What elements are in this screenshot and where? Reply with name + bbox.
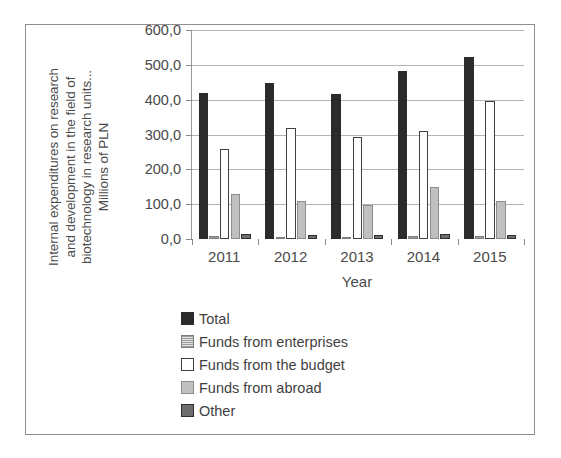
- x-tick-label-2012: 2012: [274, 248, 307, 265]
- bar-2014-funds-from-the-budget: [419, 131, 428, 239]
- legend-swatch-icon-3: [181, 381, 194, 394]
- bar-2015-other: [507, 235, 516, 239]
- bar-2014-total: [398, 71, 407, 239]
- legend-swatch-icon-1: [181, 335, 194, 348]
- plot-block: 0,0100,0200,0300,0400,0500,0600,0 201120…: [129, 30, 529, 280]
- bar-group-2015: [458, 30, 524, 239]
- y-axis-title: Internal expenditures on research and de…: [37, 22, 121, 312]
- y-tick-label-2: 200,0: [145, 161, 181, 177]
- x-axis-title: Year: [191, 273, 523, 290]
- bar-2014-funds-from-enterprises: [408, 236, 417, 239]
- y-tick-label-6: 600,0: [145, 22, 181, 38]
- bar-2012-funds-from-abroad: [297, 201, 306, 239]
- legend-swatch-icon-4: [181, 404, 194, 417]
- x-tick-mark-1: [325, 239, 326, 245]
- bar-group-2012: [258, 30, 324, 239]
- bar-2013-funds-from-enterprises: [342, 237, 351, 239]
- y-tick-label-4: 400,0: [145, 92, 181, 108]
- chart-frame: Internal expenditures on research and de…: [25, 24, 535, 435]
- bar-2014-funds-from-abroad: [430, 187, 439, 239]
- bar-2015-funds-from-enterprises: [475, 236, 484, 239]
- x-tick-label-2015: 2015: [473, 248, 506, 265]
- y-axis-title-line-2: and development in the field of: [63, 77, 80, 258]
- bar-2015-total: [464, 57, 473, 239]
- bar-2013-total: [331, 94, 340, 239]
- legend-label-2: Funds from the budget: [199, 357, 345, 373]
- y-axis-title-line-4: Millions of PLN: [96, 123, 113, 212]
- bar-2012-funds-from-the-budget: [286, 128, 295, 239]
- bar-2011-funds-from-the-budget: [220, 149, 229, 239]
- x-tick-label-2013: 2013: [340, 248, 373, 265]
- y-tick-label-5: 500,0: [145, 57, 181, 73]
- bar-2011-other: [241, 234, 250, 239]
- bar-2013-funds-from-abroad: [363, 205, 372, 239]
- legend-label-3: Funds from abroad: [199, 380, 322, 396]
- y-axis-title-line-3: biotechnology in research units...: [79, 70, 96, 264]
- legend-item-funds-from-enterprises[interactable]: Funds from enterprises: [181, 330, 441, 353]
- legend-label-0: Total: [199, 311, 230, 327]
- x-tick-mark-2: [391, 239, 392, 245]
- bar-2011-total: [199, 93, 208, 239]
- plot-area: [191, 30, 524, 239]
- legend-item-funds-from-the-budget[interactable]: Funds from the budget: [181, 353, 441, 376]
- bar-2012-total: [265, 83, 274, 239]
- bar-2011-funds-from-enterprises: [209, 236, 218, 239]
- y-tick-label-3: 300,0: [145, 127, 181, 143]
- legend-swatch-icon-2: [181, 358, 194, 371]
- legend-label-4: Other: [199, 403, 235, 419]
- legend-swatch-icon-0: [181, 312, 194, 325]
- bar-group-2013: [325, 30, 391, 239]
- x-tick-mark-4: [524, 239, 525, 245]
- x-tick-label-2011: 2011: [208, 248, 240, 265]
- legend-item-total[interactable]: Total: [181, 307, 441, 330]
- y-tick-label-0: 0,0: [161, 231, 181, 247]
- bar-2013-other: [374, 235, 383, 239]
- x-tick-mark-origin: [192, 239, 193, 245]
- legend-label-1: Funds from enterprises: [199, 334, 348, 350]
- bar-2012-funds-from-enterprises: [276, 237, 285, 239]
- bar-2012-other: [308, 235, 317, 239]
- bar-group-2014: [391, 30, 457, 239]
- legend-item-other[interactable]: Other: [181, 399, 441, 422]
- y-axis-tick-labels: 0,0100,0200,0300,0400,0500,0600,0: [129, 30, 185, 239]
- chart-legend: TotalFunds from enterprisesFunds from th…: [181, 307, 441, 422]
- legend-item-funds-from-abroad[interactable]: Funds from abroad: [181, 376, 441, 399]
- bar-2014-other: [440, 234, 449, 239]
- y-tick-label-1: 100,0: [145, 196, 181, 212]
- bar-group-2011: [192, 30, 258, 239]
- x-tick-mark-3: [458, 239, 459, 245]
- x-axis-tick-labels: 20112012201320142015: [191, 248, 523, 270]
- bars-layer: [192, 30, 524, 239]
- x-tick-mark-0: [258, 239, 259, 245]
- y-axis-title-line-1: Internal expenditures on research: [46, 68, 63, 266]
- x-tick-label-2014: 2014: [407, 248, 440, 265]
- bar-2015-funds-from-abroad: [496, 201, 505, 239]
- bar-2015-funds-from-the-budget: [485, 101, 494, 239]
- bar-2013-funds-from-the-budget: [353, 137, 362, 239]
- bar-2011-funds-from-abroad: [231, 194, 240, 239]
